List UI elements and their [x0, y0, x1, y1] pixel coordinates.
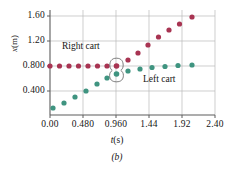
x-tick-label-2.40: 2.40	[194, 119, 234, 129]
data-point	[156, 34, 161, 39]
data-point	[175, 63, 180, 68]
data-point	[47, 63, 52, 68]
left-cart-label: Left cart	[143, 74, 175, 84]
y-axis-symbol: x	[9, 48, 19, 52]
data-point	[145, 42, 150, 47]
data-point	[137, 66, 142, 71]
data-point-collision	[114, 63, 120, 69]
right-cart-label: Right cart	[62, 41, 100, 51]
data-point-collision	[114, 71, 120, 77]
y-tick-label-0.400: 0.400	[7, 85, 45, 95]
data-point	[125, 57, 130, 62]
y-axis-title: x(m)	[9, 35, 19, 52]
data-point	[66, 63, 71, 68]
data-point	[50, 105, 55, 110]
data-point	[104, 63, 109, 68]
data-point	[104, 75, 109, 80]
data-point	[72, 94, 77, 99]
figure-panel-b: 1.60 1.20 0.800 0.400 0.00 0.480 0.960 1…	[0, 0, 234, 173]
data-point	[94, 81, 99, 86]
data-point	[149, 65, 154, 70]
data-point	[135, 50, 140, 55]
vertical-gridlines	[83, 10, 215, 115]
x-axis-unit: (s)	[113, 135, 123, 145]
data-point	[85, 63, 90, 68]
data-point	[166, 27, 171, 32]
data-point	[76, 63, 81, 68]
y-tick-label-1.60: 1.60	[7, 10, 45, 20]
data-point	[125, 68, 130, 73]
horizontal-gridlines	[50, 16, 215, 91]
data-point	[189, 62, 194, 67]
data-point	[61, 100, 66, 105]
x-axis-title: t(s)	[0, 135, 234, 145]
data-point	[83, 88, 88, 93]
collision-circle-annotation	[110, 58, 124, 82]
data-point	[189, 14, 194, 19]
data-point	[95, 63, 100, 68]
series-left-cart	[50, 62, 194, 110]
panel-label: (b)	[0, 152, 234, 162]
data-point	[177, 21, 182, 26]
data-point	[57, 63, 62, 68]
y-axis-unit: (m)	[9, 35, 19, 48]
data-point	[162, 64, 167, 69]
y-tick-label-0.800: 0.800	[7, 60, 45, 70]
